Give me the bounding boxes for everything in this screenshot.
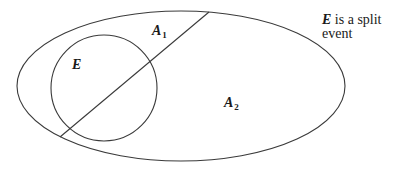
label-a2: A2	[224, 96, 239, 112]
label-a2-main: A	[224, 95, 233, 110]
caption-split-event: E is a split event	[322, 13, 382, 41]
partition-line	[60, 12, 209, 137]
label-a1-subscript: 1	[162, 30, 167, 40]
outer-sample-space-ellipse	[17, 11, 345, 161]
label-a1: A1	[152, 24, 167, 40]
caption-emphasis-e: E	[322, 12, 331, 27]
event-e-circle	[51, 35, 157, 141]
label-a1-main: A	[152, 23, 161, 38]
label-e: E	[72, 58, 81, 72]
caption-line-1: E is a split	[322, 13, 382, 27]
label-a2-subscript: 2	[234, 102, 239, 112]
label-e-text: E	[72, 57, 81, 72]
caption-line-1-rest: is a split	[331, 12, 381, 27]
caption-line-2: event	[322, 27, 382, 41]
